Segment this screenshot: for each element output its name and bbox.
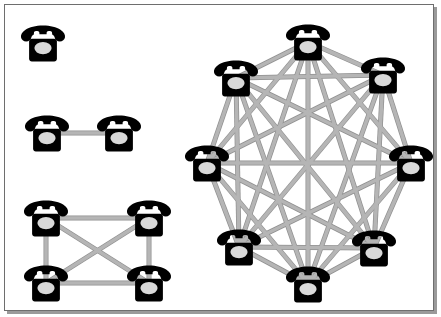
telephone-icon	[351, 228, 397, 268]
telephone-icon	[23, 263, 69, 303]
telephone-icon	[126, 263, 172, 303]
telephone-icon	[24, 113, 70, 153]
telephone-icon	[285, 264, 331, 304]
telephone-icon	[184, 143, 230, 183]
diagram-panel	[4, 4, 434, 311]
telephone-icon	[388, 143, 434, 183]
telephone-icon	[96, 113, 142, 153]
telephone-icon	[126, 198, 172, 238]
telephone-icon	[23, 198, 69, 238]
telephone-icon	[360, 55, 406, 95]
network-diagram-figure	[0, 0, 441, 317]
telephone-icon	[216, 227, 262, 267]
telephone-icon	[285, 22, 331, 62]
telephone-icon	[20, 23, 66, 63]
telephone-icon	[213, 58, 259, 98]
